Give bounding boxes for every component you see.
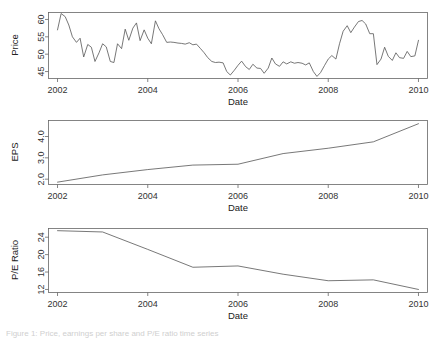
y-tick-label: 55 xyxy=(36,32,46,42)
y-tick-label: 12 xyxy=(36,284,46,294)
y-tick-label: 4.0 xyxy=(36,130,46,143)
x-tick-label: 2002 xyxy=(48,85,68,95)
price-y-axis-ticks: 45505560 xyxy=(36,14,49,76)
price-series-line xyxy=(58,14,419,77)
x-tick-label: 2010 xyxy=(408,299,428,309)
panel-price: 45505560 20022004200620082010 Price Date xyxy=(0,0,447,112)
x-tick-label: 2006 xyxy=(228,191,248,201)
pe-axis-box xyxy=(49,229,428,293)
eps-series-line xyxy=(58,124,419,182)
y-tick-label: 24 xyxy=(36,232,46,242)
y-tick-label: 16 xyxy=(36,267,46,277)
figure-caption-partial: Figure 1: Price, earnings per share and … xyxy=(6,330,306,338)
y-tick-label: 60 xyxy=(36,14,46,24)
x-tick-label: 2004 xyxy=(138,85,158,95)
pe-x-axis-ticks: 20022004200620082010 xyxy=(48,293,429,309)
y-tick-label: 20 xyxy=(36,250,46,260)
x-tick-label: 2008 xyxy=(318,299,338,309)
x-tick-label: 2010 xyxy=(408,191,428,201)
price-y-axis-title: Price xyxy=(9,34,20,56)
pe-y-axis-title: P/E Ratio xyxy=(9,240,20,280)
pe-plot-frame xyxy=(49,229,428,293)
eps-y-axis-title: EPS xyxy=(9,142,20,161)
figure-container: 45505560 20022004200620082010 Price Date… xyxy=(0,0,447,340)
y-tick-label: 45 xyxy=(36,67,46,77)
x-tick-label: 2002 xyxy=(48,299,68,309)
y-tick-label: 3.0 xyxy=(36,152,46,165)
eps-y-axis-ticks: 2.03.04.0 xyxy=(36,130,49,185)
price-x-axis-title: Date xyxy=(228,96,248,107)
y-tick-label: 50 xyxy=(36,49,46,59)
price-plot-frame xyxy=(49,13,428,79)
y-tick-label: 2.0 xyxy=(36,173,46,186)
eps-x-axis-title: Date xyxy=(228,202,248,213)
x-tick-label: 2010 xyxy=(408,85,428,95)
panel-pe-ratio: 12162024 20022004200620082010 P/E Ratio … xyxy=(0,216,447,326)
pe-chart-svg: 12162024 20022004200620082010 P/E Ratio … xyxy=(0,216,447,326)
x-tick-label: 2004 xyxy=(138,191,158,201)
x-tick-label: 2008 xyxy=(318,85,338,95)
x-tick-label: 2002 xyxy=(48,191,68,201)
eps-chart-svg: 2.03.04.0 20022004200620082010 EPS Date xyxy=(0,108,447,218)
x-tick-label: 2008 xyxy=(318,191,338,201)
price-axis-box xyxy=(49,13,428,79)
price-chart-svg: 45505560 20022004200620082010 Price Date xyxy=(0,0,447,112)
pe-y-axis-ticks: 12162024 xyxy=(36,232,49,294)
x-tick-label: 2006 xyxy=(228,299,248,309)
x-tick-label: 2004 xyxy=(138,299,158,309)
x-tick-label: 2006 xyxy=(228,85,248,95)
panel-eps: 2.03.04.0 20022004200620082010 EPS Date xyxy=(0,108,447,218)
pe-x-axis-title: Date xyxy=(228,310,248,321)
pe-series-line xyxy=(58,231,419,290)
eps-x-axis-ticks: 20022004200620082010 xyxy=(48,185,429,201)
price-x-axis-ticks: 20022004200620082010 xyxy=(48,79,429,95)
